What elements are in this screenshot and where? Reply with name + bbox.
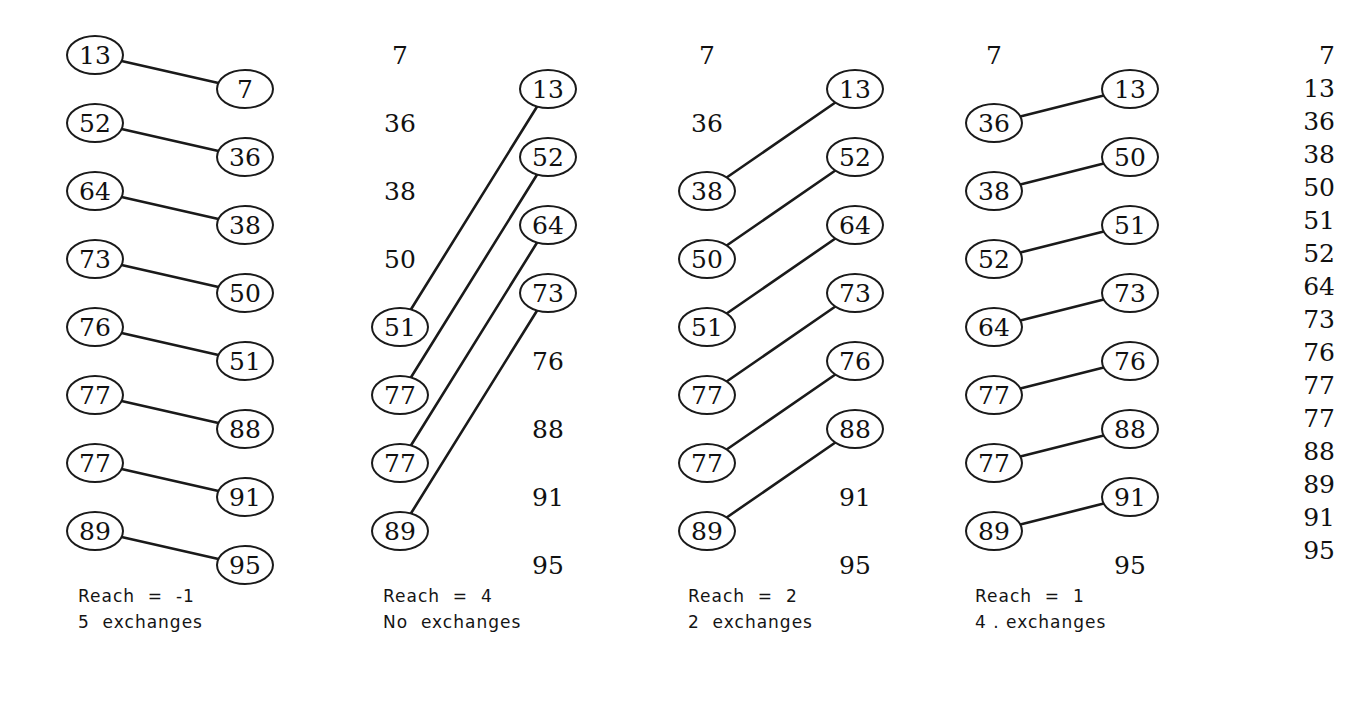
pass-caption: Reach = -15 exchanges <box>78 583 203 635</box>
exchange-link <box>1020 232 1103 253</box>
final-sorted-value: 13 <box>1285 76 1335 101</box>
sort-node-circled: 88 <box>1101 409 1159 449</box>
sort-node-circled: 77 <box>66 443 124 483</box>
pass-caption: Reach = 22 exchanges <box>688 583 813 635</box>
exchange-link <box>122 61 219 83</box>
pass-caption-exchanges: No exchanges <box>383 609 521 635</box>
sort-node-plain: 95 <box>826 545 884 585</box>
sort-node-plain: 7 <box>678 35 736 75</box>
sort-node-circled: 89 <box>965 511 1023 551</box>
sort-node-circled: 52 <box>965 239 1023 279</box>
final-sorted-value: 76 <box>1285 340 1335 365</box>
sort-node-circled: 51 <box>371 307 429 347</box>
sort-node-circled: 13 <box>826 69 884 109</box>
exchange-link <box>1020 368 1103 389</box>
sort-node-circled: 51 <box>216 341 274 381</box>
exchange-link <box>727 103 836 178</box>
sort-node-circled: 77 <box>965 375 1023 415</box>
sort-node-circled: 64 <box>826 205 884 245</box>
final-sorted-value: 51 <box>1285 208 1335 233</box>
sort-node-circled: 89 <box>371 511 429 551</box>
sort-node-circled: 64 <box>66 171 124 211</box>
exchange-link <box>727 239 836 314</box>
pass-caption-reach: Reach = 4 <box>383 586 493 606</box>
exchange-link <box>122 537 219 559</box>
final-sorted-value: 77 <box>1285 406 1335 431</box>
exchange-link <box>122 469 219 491</box>
sort-node-circled: 50 <box>1101 137 1159 177</box>
sort-node-circled: 38 <box>678 171 736 211</box>
exchange-link <box>727 171 836 246</box>
sort-node-plain: 88 <box>519 409 577 449</box>
final-sorted-value: 64 <box>1285 274 1335 299</box>
sort-node-circled: 89 <box>678 511 736 551</box>
final-sorted-value: 77 <box>1285 373 1335 398</box>
sort-node-circled: 89 <box>66 511 124 551</box>
pass-caption-reach: Reach = 1 <box>975 586 1085 606</box>
sort-node-circled: 52 <box>519 137 577 177</box>
sort-node-circled: 95 <box>216 545 274 585</box>
final-sorted-value: 38 <box>1285 142 1335 167</box>
sort-node-circled: 64 <box>519 205 577 245</box>
pass-caption-exchanges: 2 exchanges <box>688 609 813 635</box>
final-sorted-value: 50 <box>1285 175 1335 200</box>
sort-node-circled: 13 <box>519 69 577 109</box>
sort-node-circled: 77 <box>965 443 1023 483</box>
sort-node-circled: 76 <box>1101 341 1159 381</box>
sort-node-circled: 76 <box>66 307 124 347</box>
sort-node-circled: 77 <box>678 375 736 415</box>
sort-node-circled: 51 <box>678 307 736 347</box>
final-sorted-value: 36 <box>1285 109 1335 134</box>
exchange-link <box>122 401 219 423</box>
sort-node-circled: 64 <box>965 307 1023 347</box>
sort-node-circled: 73 <box>519 273 577 313</box>
exchange-link <box>1020 96 1103 117</box>
exchange-link <box>727 375 836 450</box>
pass-caption-reach: Reach = 2 <box>688 586 798 606</box>
exchange-link <box>1020 300 1103 321</box>
exchange-link <box>122 265 219 287</box>
exchange-link <box>1020 164 1103 185</box>
sort-node-circled: 77 <box>678 443 736 483</box>
sort-node-plain: 36 <box>678 103 736 143</box>
sort-node-circled: 52 <box>66 103 124 143</box>
sort-node-circled: 88 <box>826 409 884 449</box>
sort-node-plain: 76 <box>519 341 577 381</box>
final-sorted-value: 95 <box>1285 538 1335 563</box>
pass-caption: Reach = 4No exchanges <box>383 583 521 635</box>
pass-caption: Reach = 14 . exchanges <box>975 583 1106 635</box>
sort-node-circled: 73 <box>826 273 884 313</box>
sort-node-circled: 91 <box>216 477 274 517</box>
sort-node-circled: 76 <box>826 341 884 381</box>
pass-caption-exchanges: 5 exchanges <box>78 609 203 635</box>
final-sorted-value: 89 <box>1285 472 1335 497</box>
exchange-link <box>122 197 219 219</box>
exchange-link <box>122 129 219 151</box>
sort-node-circled: 73 <box>66 239 124 279</box>
sort-node-circled: 77 <box>371 443 429 483</box>
sort-node-circled: 91 <box>1101 477 1159 517</box>
pass-caption-exchanges: 4 . exchanges <box>975 609 1106 635</box>
sort-node-plain: 36 <box>371 103 429 143</box>
exchange-link <box>411 107 537 310</box>
sort-node-plain: 7 <box>371 35 429 75</box>
sort-node-plain: 50 <box>371 239 429 279</box>
final-sorted-value: 73 <box>1285 307 1335 332</box>
sort-node-plain: 91 <box>826 477 884 517</box>
sort-node-circled: 38 <box>965 171 1023 211</box>
final-sorted-value: 52 <box>1285 241 1335 266</box>
exchange-link <box>1020 504 1103 525</box>
exchange-link <box>727 307 836 382</box>
sort-node-circled: 50 <box>216 273 274 313</box>
sort-node-circled: 13 <box>1101 69 1159 109</box>
shell-sort-figure: 1375236643873507651778877918995Reach = -… <box>0 0 1353 712</box>
sort-node-circled: 50 <box>678 239 736 279</box>
exchange-link <box>122 333 219 355</box>
exchange-link <box>727 443 836 518</box>
sort-node-circled: 13 <box>66 35 124 75</box>
sort-node-circled: 77 <box>371 375 429 415</box>
sort-node-circled: 38 <box>216 205 274 245</box>
pass-caption-reach: Reach = -1 <box>78 586 195 606</box>
sort-node-plain: 7 <box>965 35 1023 75</box>
exchange-link <box>1020 436 1103 457</box>
